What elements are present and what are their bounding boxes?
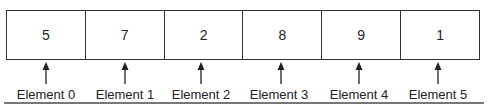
array-cell-4: 9 bbox=[322, 11, 401, 59]
array-cell-3: 8 bbox=[243, 11, 322, 59]
array-cell-0: 5 bbox=[7, 11, 86, 59]
element-label-5: Element 5 bbox=[388, 87, 488, 102]
arrow-up-icon bbox=[196, 62, 206, 84]
arrow-up-icon bbox=[276, 62, 286, 84]
arrow-up-icon bbox=[120, 62, 130, 84]
array-box: 5 7 2 8 9 1 bbox=[6, 10, 480, 60]
arrow-up-icon bbox=[433, 62, 443, 84]
baseline-divider bbox=[4, 102, 484, 104]
arrow-up-icon bbox=[41, 62, 51, 84]
array-cell-2: 2 bbox=[165, 11, 244, 59]
array-cell-5: 1 bbox=[401, 11, 479, 59]
array-cell-1: 7 bbox=[86, 11, 165, 59]
arrow-up-icon bbox=[354, 62, 364, 84]
